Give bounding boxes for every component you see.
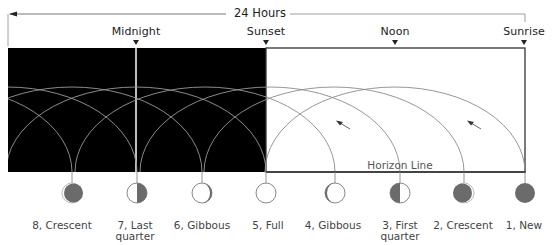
- moon-new-icon: [515, 172, 535, 203]
- moon-full-icon: [256, 172, 276, 203]
- horizon-label: Horizon Line: [367, 159, 432, 171]
- time-marker-triangles: [133, 40, 527, 45]
- moon-phase-diagram: 24 Hours Midnight Sunset Noon Sunrise Ho…: [0, 0, 552, 245]
- phase-label-7: 7, Last quarter: [116, 220, 155, 242]
- phase-label-5: 5, Full: [252, 220, 283, 231]
- marker-triangle-icon: [133, 40, 139, 45]
- phase-label-line1: 4, Gibbous: [305, 220, 361, 231]
- phase-label-line1: 8, Crescent: [32, 220, 92, 231]
- left-arrow-icon: [9, 12, 17, 17]
- marker-noon: Noon: [380, 25, 409, 38]
- moon-first-quarter-icon: [390, 172, 410, 203]
- marker-midnight: Midnight: [112, 25, 161, 38]
- span-label: 24 Hours: [230, 6, 290, 20]
- day-region: [266, 48, 525, 172]
- marker-triangle-icon: [392, 40, 398, 45]
- phase-label-line1: 5, Full: [252, 220, 283, 231]
- phase-label-line2: quarter: [116, 231, 155, 242]
- marker-sunset: Sunset: [247, 25, 285, 38]
- phase-label-line2: quarter: [381, 231, 420, 242]
- phase-label-2: 2, Crescent: [433, 220, 493, 231]
- moon-phase-icons: [62, 172, 535, 203]
- moon-waning-crescent-icon: [62, 172, 83, 203]
- phase-label-1: 1, New: [506, 220, 542, 231]
- phase-label-line1: 6, Gibbous: [174, 220, 230, 231]
- marker-sunrise: Sunrise: [503, 25, 545, 38]
- moon-waning-gibbous-icon: [192, 172, 212, 203]
- phase-label-line1: 1, New: [506, 220, 542, 231]
- moon-last-quarter-icon: [127, 172, 147, 203]
- marker-triangle-icon: [263, 40, 269, 45]
- phase-label-8: 8, Crescent: [32, 220, 92, 231]
- moon-waxing-gibbous-icon: [325, 172, 345, 203]
- moon-waxing-crescent-icon: [453, 172, 474, 203]
- phase-label-6: 6, Gibbous: [174, 220, 230, 231]
- marker-triangle-icon: [521, 40, 527, 45]
- phase-label-4: 4, Gibbous: [305, 220, 361, 231]
- phase-label-line1: 2, Crescent: [433, 220, 493, 231]
- phase-label-3: 3, First quarter: [381, 220, 420, 242]
